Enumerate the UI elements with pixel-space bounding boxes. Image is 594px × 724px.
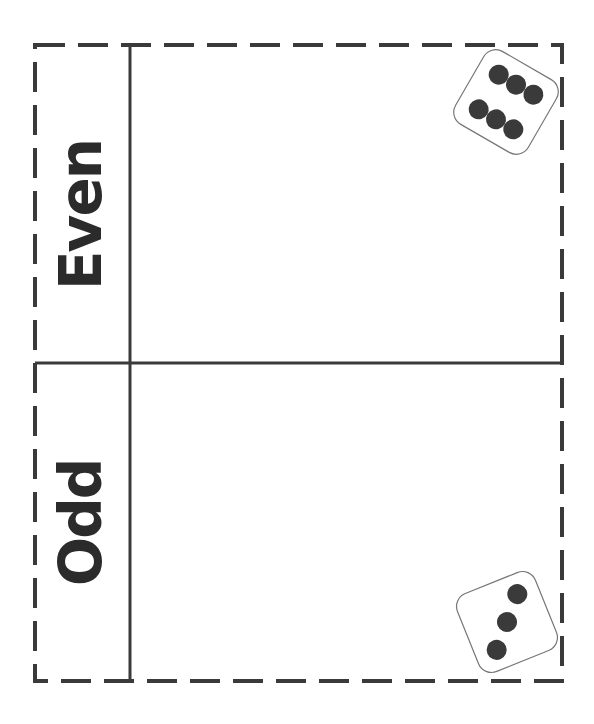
die-six-icon [449, 45, 564, 160]
die-three-icon [452, 567, 561, 676]
sorting-mat: Even Odd [0, 0, 594, 724]
even-label: Even [46, 130, 116, 300]
odd-label: Odd [46, 438, 116, 608]
mat-lines [0, 0, 594, 724]
